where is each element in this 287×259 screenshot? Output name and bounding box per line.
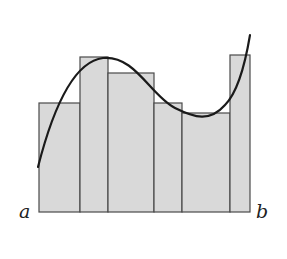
label-b: b: [256, 200, 268, 222]
riemann-bar-5: [182, 113, 230, 212]
riemann-bar-4: [154, 103, 182, 212]
riemann-bar-1: [39, 103, 80, 212]
riemann-sum-diagram: a b: [0, 0, 287, 259]
label-a: a: [19, 200, 30, 222]
riemann-bar-3: [108, 73, 154, 212]
riemann-bar-2: [80, 57, 108, 212]
